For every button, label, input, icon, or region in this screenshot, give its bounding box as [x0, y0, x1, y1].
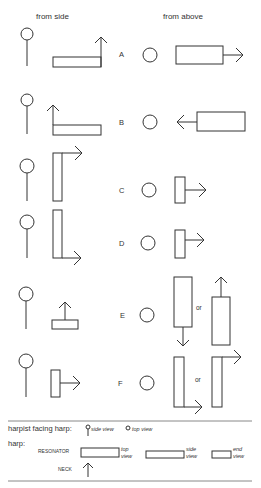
legend-side-view-text-1: side — [186, 446, 196, 452]
legend-harpist-label: harpist facing harp: — [8, 424, 72, 433]
harp-above-f-option-2 — [212, 350, 241, 407]
harp-side-f — [51, 370, 80, 397]
row-a: A — [21, 28, 243, 67]
legend: harpist facing harp: side view top view … — [8, 424, 245, 477]
row-f: F or — [19, 350, 241, 414]
harpist-side-icon — [20, 159, 34, 201]
harpist-side-icon — [20, 215, 34, 258]
legend-resonator-side-shape — [146, 451, 184, 458]
harp-above-d — [175, 230, 204, 258]
harp-above-e-option-1 — [174, 277, 192, 346]
row-d: D — [20, 210, 204, 265]
harp-above-c — [175, 177, 206, 203]
harp-side-d — [53, 210, 81, 265]
harp-above-e-option-2 — [212, 277, 230, 345]
row-label-e: E — [120, 311, 125, 320]
row-b: B — [21, 94, 245, 135]
legend-side-view-label: side view — [91, 426, 115, 432]
legend-top-view-icon — [126, 426, 130, 430]
or-label-f: or — [195, 376, 202, 383]
row-label-b: B — [119, 118, 124, 127]
harpist-side-icon — [19, 287, 33, 329]
row-label-a: A — [119, 50, 124, 59]
legend-top-view-text-1: top — [121, 446, 129, 452]
harp-side-e — [52, 302, 78, 329]
harpist-top-icon — [143, 115, 157, 129]
harpist-top-icon — [143, 48, 157, 62]
harpist-top-icon — [141, 236, 155, 250]
row-label-d: D — [119, 239, 125, 248]
legend-top-view-label: top view — [132, 426, 153, 432]
legend-end-view-text-1: end — [233, 446, 243, 452]
harp-above-b — [177, 112, 245, 131]
legend-side-view-icon — [86, 425, 90, 436]
harpist-side-icon — [21, 28, 33, 66]
legend-end-view-text-2: view — [233, 453, 245, 459]
legend-neck-label: NECK — [58, 466, 73, 472]
legend-neck-arrow-icon — [83, 463, 93, 477]
harp-orientation-diagram: from side from above A — [0, 0, 261, 488]
or-label-e: or — [196, 304, 203, 311]
harpist-side-icon — [21, 94, 33, 134]
row-e: E or — [19, 277, 230, 346]
harp-side-c — [53, 146, 82, 201]
row-label-c: C — [119, 186, 125, 195]
harpist-side-icon — [19, 354, 33, 397]
harp-side-b — [47, 105, 101, 135]
legend-resonator-top-shape — [81, 448, 119, 457]
header-from-side: from side — [36, 12, 69, 21]
legend-resonator-label: RESONATOR — [38, 448, 70, 454]
legend-side-view-text-2: view — [186, 453, 198, 459]
harp-above-a — [176, 46, 243, 64]
row-c: C — [20, 146, 206, 203]
header-from-above: from above — [163, 12, 204, 21]
legend-resonator-end-shape — [212, 451, 231, 458]
harp-side-a — [53, 37, 107, 67]
harpist-top-icon — [142, 183, 156, 197]
harpist-top-icon — [140, 376, 154, 390]
harp-above-f-option-1 — [174, 357, 202, 414]
legend-harp-label: harp: — [8, 439, 25, 448]
legend-top-view-text-2: view — [121, 453, 133, 459]
row-label-f: F — [118, 379, 123, 388]
harpist-top-icon — [140, 308, 154, 322]
